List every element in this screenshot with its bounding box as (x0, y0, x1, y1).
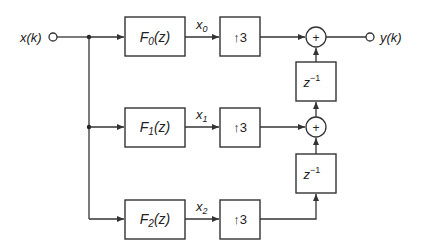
adder-0-symbol: + (312, 31, 319, 45)
arrow-upsampler2-to-delay1 (260, 194, 316, 219)
signal-x1-label: x1 (195, 107, 208, 124)
output-label: y(k) (379, 30, 402, 45)
filter-f1-label: F1(z) (140, 119, 170, 137)
signal-x0-label: x0 (195, 17, 208, 34)
signal-x2-label: x2 (195, 199, 208, 216)
input-label: x(k) (19, 30, 42, 45)
upsampler-2-label: ↑3 (233, 212, 247, 227)
filter-f2-label: F2(z) (140, 211, 170, 229)
filter-f0-label: F0(z) (140, 29, 170, 47)
upsampler-1-label: ↑3 (233, 120, 247, 135)
input-terminal (49, 33, 57, 41)
upsampler-0-label: ↑3 (233, 30, 247, 45)
polyphase-diagram: x(k) F0(z) x0 ↑3 + y(k) z−1 F1(z) x1 ↑3 … (0, 0, 423, 250)
adder-1-symbol: + (312, 121, 319, 135)
output-terminal (366, 33, 374, 41)
